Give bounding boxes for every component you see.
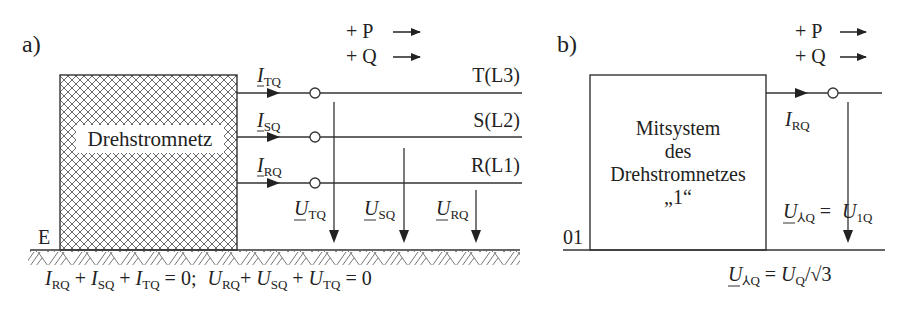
phase-label-l2: S(L2)	[473, 109, 520, 132]
current-label-rq: IRQ	[256, 154, 282, 179]
terminal-circle-icon	[310, 178, 320, 188]
three-phase-network-box	[60, 75, 237, 250]
box-line-1: Mitsystem	[636, 117, 721, 140]
earth-hatch	[28, 251, 520, 265]
arrow-down-icon	[329, 230, 339, 243]
voltage-label-sq: USQ	[364, 197, 396, 222]
voltage-label-tq: UTQ	[294, 197, 326, 222]
box-line-3: Drehstromnetzes	[610, 163, 746, 185]
current-label-rq-b: IRQ	[784, 108, 810, 133]
power-direction-b: + P + Q	[795, 20, 866, 67]
terminal-circle-icon	[310, 88, 320, 98]
arrow-down-icon	[471, 230, 481, 243]
terminal-circle-icon	[828, 88, 838, 98]
voltage-label-rq: URQ	[436, 197, 469, 222]
kirchhoff-equation: IRQ + ISQ + ITQ = 0; URQ+ USQ + UTQ = 0	[44, 267, 372, 292]
earth-label: E	[38, 226, 50, 248]
panel-a-label: a)	[22, 31, 41, 57]
panel-b: b) + P + Q Mitsystem des Drehstromnetzes…	[557, 20, 885, 288]
phase-label-l1: R(L1)	[471, 154, 520, 177]
terminals	[310, 88, 320, 188]
arrow-right-icon	[267, 178, 280, 188]
current-label-sq: ISQ	[256, 109, 281, 134]
arrow-down-icon	[843, 230, 853, 243]
power-p-label: + P	[346, 20, 373, 42]
terminal-circle-icon	[310, 132, 320, 142]
network-label: Drehstromnetz	[88, 127, 213, 151]
power-q-label: + Q	[346, 45, 377, 67]
panel-a: a) + P + Q Drehstromnetz	[22, 20, 522, 292]
panel-b-label: b)	[557, 31, 577, 57]
power-p-label: + P	[795, 20, 822, 42]
phase-label-l3: T(L3)	[472, 64, 520, 87]
arrow-down-icon	[399, 230, 409, 243]
box-line-4: „1“	[664, 186, 692, 208]
arrow-right-icon	[795, 88, 808, 98]
power-direction-a: + P + Q	[346, 20, 420, 67]
diagram-canvas: a) + P + Q Drehstromnetz	[0, 0, 911, 310]
voltage-eq-b: U⅄Q = U1Q	[783, 200, 873, 225]
bottom-equation-b: U⅄Q = UQ/√3	[728, 263, 831, 288]
power-q-label: + Q	[795, 45, 826, 67]
arrow-right-icon	[267, 88, 280, 98]
box-line-2: des	[665, 140, 692, 162]
current-label-tq: ITQ	[256, 64, 282, 89]
node-label: 01	[563, 226, 583, 248]
